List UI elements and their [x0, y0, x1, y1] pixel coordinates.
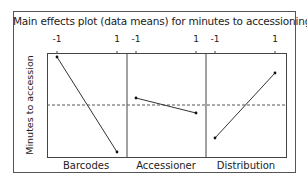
plot-area: [0, 0, 307, 184]
factor-label-accessioner: Accessioner: [136, 160, 196, 171]
factor-label-barcodes: Barcodes: [63, 160, 109, 171]
factor-label-distribution: Distribution: [217, 160, 275, 171]
